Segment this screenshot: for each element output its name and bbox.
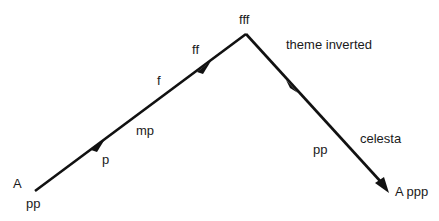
label-mp: mp — [136, 124, 154, 137]
label-p: p — [102, 153, 109, 166]
label-theme-inverted: theme inverted — [286, 38, 372, 51]
label-pp-descent: pp — [313, 143, 327, 156]
descent-line — [246, 34, 381, 182]
label-f: f — [157, 74, 161, 87]
start-label-pp: pp — [26, 197, 40, 210]
end-label: A ppp — [395, 185, 428, 198]
arrowhead-ascent-1 — [91, 139, 105, 152]
label-ff: ff — [192, 43, 199, 56]
ascent-line — [35, 34, 246, 191]
start-label-A: A — [13, 177, 22, 190]
peak-label-fff: fff — [239, 13, 249, 26]
dynamics-diagram — [0, 0, 439, 221]
label-celesta: celesta — [360, 132, 401, 145]
arrowhead-descent-1 — [286, 80, 298, 93]
